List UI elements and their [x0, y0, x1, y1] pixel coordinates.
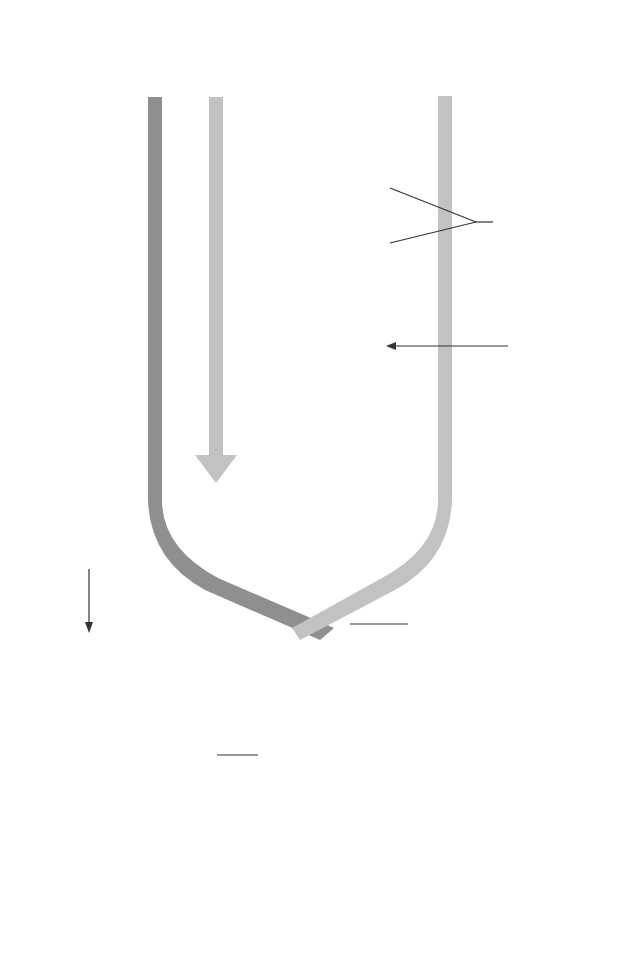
- okazaki-leader-1: [390, 188, 476, 222]
- dna-replication-diagram: [0, 0, 639, 972]
- lagging-template-strand: [438, 96, 452, 476]
- right-fork-curve: [292, 470, 452, 640]
- left-fork-curve: [148, 470, 334, 640]
- nick-arrowhead: [386, 342, 396, 350]
- fork-curves: [148, 470, 452, 640]
- leading-template-strand: [148, 97, 162, 477]
- unwind-arrowhead: [85, 622, 93, 633]
- leading-strand-region: [148, 97, 237, 483]
- leading-new-strand-arrow: [195, 97, 237, 483]
- lagging-strand-region: [438, 96, 452, 476]
- okazaki-leader-2: [390, 222, 476, 243]
